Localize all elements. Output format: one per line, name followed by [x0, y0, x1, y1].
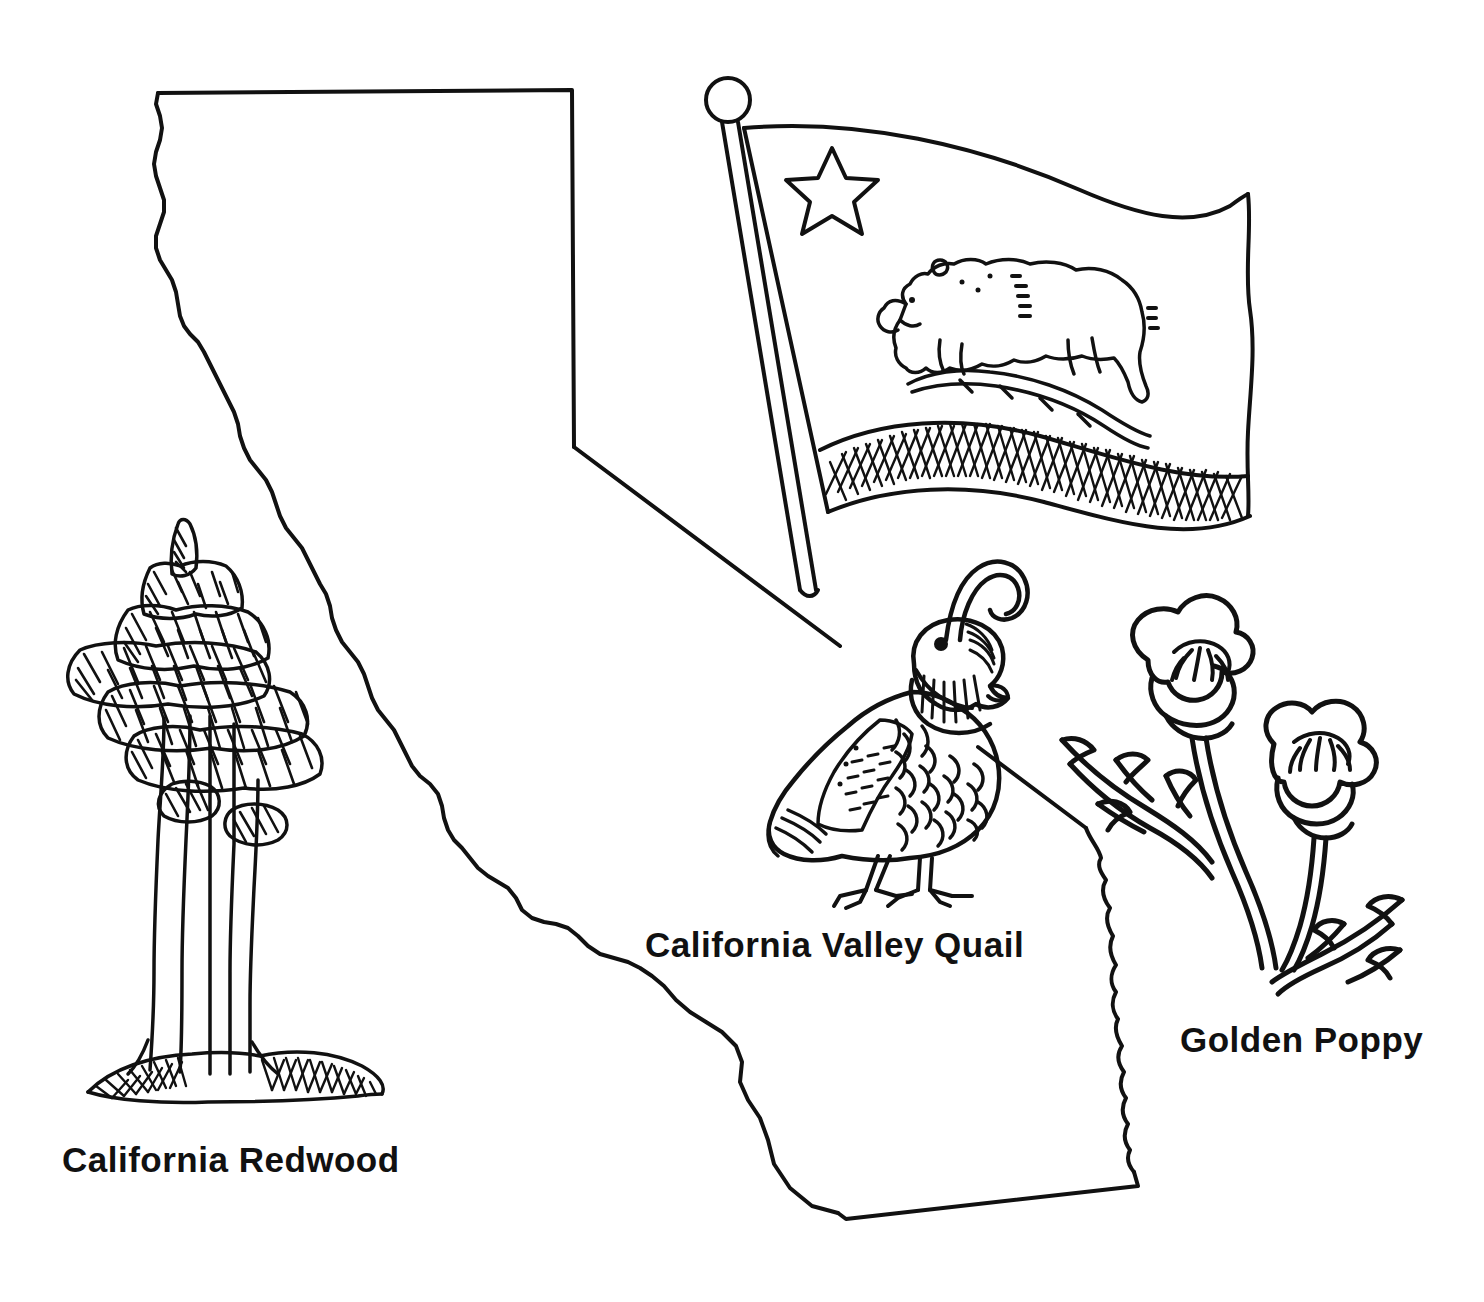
label-california-redwood: California Redwood [62, 1140, 400, 1180]
page-background [0, 0, 1484, 1302]
label-california-valley-quail: California Valley Quail [645, 925, 1024, 965]
line-art-illustration [0, 0, 1484, 1302]
label-golden-poppy: Golden Poppy [1180, 1020, 1423, 1060]
quail-eye [934, 637, 948, 651]
coloring-page: California Redwood California Valley Qua… [0, 0, 1484, 1302]
